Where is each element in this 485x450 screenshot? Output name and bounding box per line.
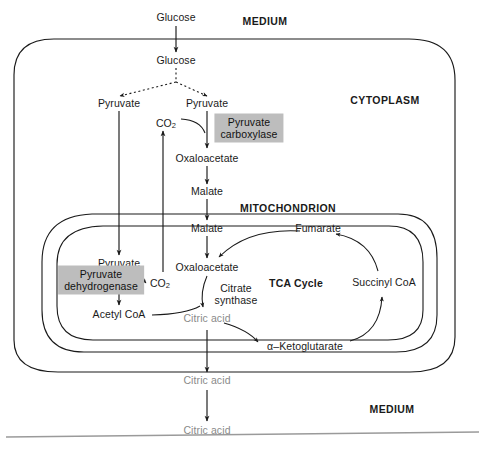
metabolite-oxaloacetate-mitochondrion: Oxaloacetate — [175, 262, 238, 273]
bottom-rule — [6, 432, 479, 437]
compartment-label-medium-top: MEDIUM — [243, 16, 288, 27]
metabolite-malate-mitochondrion: Malate — [191, 223, 223, 234]
metabolite-glucose-medium: Glucose — [156, 12, 195, 23]
metabolite-pyruvate-cytoplasm-left: Pyruvate — [98, 98, 140, 109]
arrow-fumarate-to-oxaloacetate — [219, 231, 300, 257]
enzyme-citrate-synthase: Citrate synthase — [215, 283, 258, 306]
metabolite-succinyl-coa: Succinyl CoA — [352, 277, 416, 288]
enzyme-pyruvate-dehydrogenase: Pyruvate dehydrogenase — [58, 266, 144, 295]
metabolite-co2-mitochondrion: CO2 — [150, 278, 170, 289]
metabolite-acetyl-coa: Acetyl CoA — [93, 309, 146, 320]
co2-text: CO — [156, 117, 172, 129]
arrow-ketoglutarate-to-succinylcoa — [350, 297, 382, 341]
tca-cycle-label: TCA Cycle — [269, 278, 323, 289]
enzyme-line-2: dehydrogenase — [64, 280, 138, 292]
metabolite-alpha-ketoglutarate: α–Ketoglutarate — [267, 341, 343, 352]
metabolite-malate-cytoplasm: Malate — [191, 186, 223, 197]
arrow-citrate-to-ketoglutarate — [224, 323, 258, 342]
compartment-label-cytoplasm: CYTOPLASM — [350, 95, 419, 106]
enzyme-line-1: Citrate — [215, 283, 258, 295]
pathway-diagram: MEDIUM CYTOPLASM MITOCHONDRION MEDIUM Gl… — [0, 0, 485, 450]
enzyme-line-1: Pyruvate — [64, 268, 138, 280]
co2-subscript: 2 — [172, 121, 176, 130]
co2-text: CO — [150, 277, 166, 289]
metabolite-oxaloacetate-cytoplasm: Oxaloacetate — [175, 153, 238, 164]
enzyme-pyruvate-carboxylase: Pyruvate carboxylase — [214, 114, 283, 143]
metabolite-pyruvate-cytoplasm-right: Pyruvate — [186, 98, 228, 109]
enzyme-line-2: synthase — [215, 294, 258, 306]
metabolite-citric-acid-mitochondrion: Citric acid — [183, 313, 230, 324]
compartment-label-medium-bottom: MEDIUM — [370, 404, 415, 415]
arrow-glycolysis-dotted — [120, 68, 207, 96]
cell-membrane-boundary — [14, 39, 455, 372]
co2-subscript: 2 — [166, 281, 170, 290]
enzyme-line-2: carboxylase — [220, 128, 277, 140]
arrow-succinylcoa-to-fumarate — [336, 234, 378, 271]
metabolite-fumarate: Fumarate — [295, 223, 341, 234]
metabolite-citric-acid-medium: Citric acid — [183, 425, 230, 436]
metabolite-glucose-cytoplasm: Glucose — [156, 55, 195, 66]
metabolite-citric-acid-cytoplasm: Citric acid — [183, 375, 230, 386]
metabolite-co2-cytoplasm: CO2 — [156, 118, 176, 129]
compartment-label-mitochondrion: MITOCHONDRION — [240, 203, 336, 214]
pathway-vector-layer — [0, 0, 485, 450]
arrow-pyruvate-to-oxaloacetate — [181, 111, 207, 148]
enzyme-line-1: Pyruvate — [220, 116, 277, 128]
